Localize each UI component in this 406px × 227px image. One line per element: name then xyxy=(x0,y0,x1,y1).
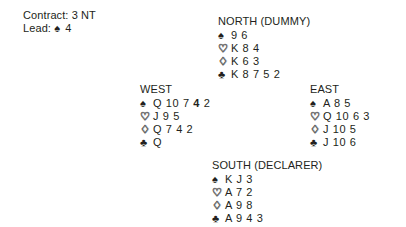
heart-icon: ♡ xyxy=(218,42,229,55)
east-hearts-cards: Q 10 6 3 xyxy=(323,110,370,123)
east-hearts-row: ♡ Q 10 6 3 xyxy=(310,110,370,123)
north-diamonds-cards: K 6 3 xyxy=(231,55,260,68)
lead-line: Lead: ♠4 xyxy=(23,22,96,35)
spade-icon: ♠ xyxy=(218,29,229,42)
south-spades-cards: K J 3 xyxy=(225,173,253,186)
diamond-icon: ♢ xyxy=(140,123,151,136)
heart-icon: ♡ xyxy=(310,110,321,123)
west-diamonds-row: ♢ Q 7 4 2 xyxy=(140,123,210,136)
hand-south-label: SOUTH (DECLARER) xyxy=(212,159,322,172)
heart-icon: ♡ xyxy=(212,186,223,199)
north-clubs-cards: K 8 7 5 2 xyxy=(231,68,280,81)
west-spades-cards: Q 10 7 4 2 xyxy=(153,97,210,110)
south-clubs-cards: A 9 4 3 xyxy=(225,212,263,225)
hand-north: NORTH (DUMMY) ♠ 9 6 ♡ K 8 4 ♢ K 6 3 ♣ K … xyxy=(218,15,310,81)
south-diamonds-row: ♢ A 9 8 xyxy=(212,199,322,212)
north-hearts-row: ♡ K 8 4 xyxy=(218,42,310,55)
hand-north-label: NORTH (DUMMY) xyxy=(218,15,310,28)
hand-west: WEST ♠ Q 10 7 4 2 ♡ J 9 5 ♢ Q 7 4 2 ♣ Q xyxy=(140,83,210,149)
west-hearts-row: ♡ J 9 5 xyxy=(140,110,210,123)
diamond-icon: ♢ xyxy=(218,55,229,68)
west-diamonds-cards: Q 7 4 2 xyxy=(153,123,193,136)
south-diamonds-cards: A 9 8 xyxy=(225,199,253,212)
diamond-icon: ♢ xyxy=(212,199,223,212)
hand-east-label: EAST xyxy=(310,83,370,96)
east-clubs-cards: J 10 6 xyxy=(323,136,357,149)
contract-info-block: Contract: 3 NT Lead: ♠4 xyxy=(23,9,96,35)
contract-line: Contract: 3 NT xyxy=(23,9,96,22)
east-spades-cards: A 8 5 xyxy=(323,97,351,110)
spade-icon: ♠ xyxy=(140,97,151,110)
diamond-icon: ♢ xyxy=(310,123,321,136)
hand-east: EAST ♠ A 8 5 ♡ Q 10 6 3 ♢ J 10 5 ♣ J 10 … xyxy=(310,83,370,149)
club-icon: ♣ xyxy=(212,212,223,225)
east-diamonds-cards: J 10 5 xyxy=(323,123,357,136)
north-hearts-cards: K 8 4 xyxy=(231,42,260,55)
club-icon: ♣ xyxy=(218,68,229,81)
west-hearts-cards: J 9 5 xyxy=(153,110,180,123)
west-spades-post: 2 xyxy=(200,97,210,109)
bridge-deal-diagram: Contract: 3 NT Lead: ♠4 NORTH (DUMMY) ♠ … xyxy=(0,0,406,227)
spade-icon: ♠ xyxy=(310,97,321,110)
east-diamonds-row: ♢ J 10 5 xyxy=(310,123,370,136)
north-spades-cards: 9 6 xyxy=(231,29,248,42)
north-clubs-row: ♣ K 8 7 5 2 xyxy=(218,68,310,81)
club-icon: ♣ xyxy=(310,136,321,149)
spade-icon: ♠ xyxy=(54,22,65,35)
spade-icon: ♠ xyxy=(212,173,223,186)
east-spades-row: ♠ A 8 5 xyxy=(310,97,370,110)
west-spades-pre: Q 10 7 xyxy=(153,97,193,109)
lead-rank: 4 xyxy=(65,22,71,34)
hand-south: SOUTH (DECLARER) ♠ K J 3 ♡ A 7 2 ♢ A 9 8… xyxy=(212,159,322,225)
hand-west-label: WEST xyxy=(140,83,210,96)
south-hearts-cards: A 7 2 xyxy=(225,186,253,199)
west-spades-lead-card: 4 xyxy=(193,97,200,109)
south-hearts-row: ♡ A 7 2 xyxy=(212,186,322,199)
club-icon: ♣ xyxy=(140,136,151,149)
north-diamonds-row: ♢ K 6 3 xyxy=(218,55,310,68)
west-clubs-cards: Q xyxy=(153,136,162,149)
east-clubs-row: ♣ J 10 6 xyxy=(310,136,370,149)
south-spades-row: ♠ K J 3 xyxy=(212,173,322,186)
west-clubs-row: ♣ Q xyxy=(140,136,210,149)
south-clubs-row: ♣ A 9 4 3 xyxy=(212,212,322,225)
heart-icon: ♡ xyxy=(140,110,151,123)
lead-label: Lead: xyxy=(23,22,51,34)
north-spades-row: ♠ 9 6 xyxy=(218,29,310,42)
west-spades-row: ♠ Q 10 7 4 2 xyxy=(140,97,210,110)
